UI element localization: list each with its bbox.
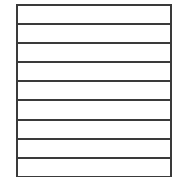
row-2 [18,25,170,44]
row-1 [18,6,170,25]
row-9 [18,159,170,177]
row-4 [18,63,170,82]
row-7 [18,121,170,140]
row-3 [18,44,170,63]
lined-box [16,4,172,177]
row-5 [18,82,170,101]
row-8 [18,140,170,159]
row-6 [18,101,170,120]
